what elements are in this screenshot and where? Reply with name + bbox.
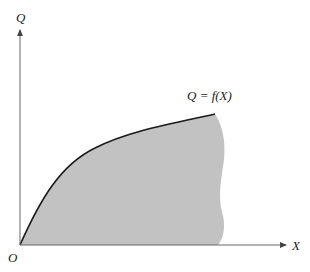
y-axis-label: Q — [16, 10, 26, 25]
curve-label: Q = f(X) — [187, 88, 232, 103]
production-function-diagram: Q X O Q = f(X) — [0, 0, 310, 272]
x-axis-label: X — [291, 238, 301, 253]
origin-label: O — [8, 250, 18, 265]
shaded-region — [20, 114, 225, 245]
